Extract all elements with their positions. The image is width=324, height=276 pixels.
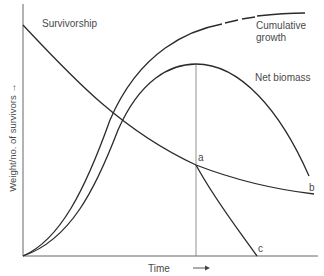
net-biomass-label: Net biomass [255,72,311,83]
y-axis-label: Weight/no. of survivors → [7,78,18,198]
point-b-label: b [309,182,315,193]
point-c-label: c [258,243,263,254]
cumulative-growth-tail [257,13,305,16]
survivorship-label: Survivorship [42,18,97,29]
cumulative-growth-label-line1: Cumulative [256,20,306,31]
a-to-c-curve [196,165,257,256]
cumulative-growth-dash-1 [225,20,238,23]
time-arrow-head-icon [205,266,210,271]
cumulative-growth-curve [23,24,222,256]
point-a-label: a [198,152,204,163]
x-axis-label: Time [148,263,170,274]
net-biomass-curve [23,64,309,256]
cumulative-growth-dash-2 [242,17,255,19]
cumulative-growth-label-line2: growth [256,32,286,43]
